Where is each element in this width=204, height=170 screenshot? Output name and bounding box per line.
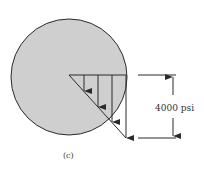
figure-caption: (c) [63,151,74,160]
circular-cross-section [11,19,127,135]
stress-distribution-diagram: 4000 psi (c) [0,0,204,170]
stress-magnitude-label: 4000 psi [155,103,194,113]
